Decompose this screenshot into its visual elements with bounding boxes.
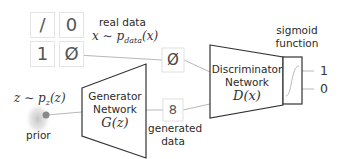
real-digit-3: 1 bbox=[30, 41, 55, 67]
real-to-discriminator-connector bbox=[184, 60, 210, 72]
real-digit-2: 0 bbox=[59, 12, 84, 38]
generated-to-discriminator-connector bbox=[183, 104, 210, 110]
discriminator-subtitle: Network bbox=[208, 76, 286, 88]
real-sample-digit: Ø bbox=[162, 48, 184, 72]
generator-title: Generator bbox=[86, 90, 144, 102]
prior-label: prior bbox=[26, 129, 51, 141]
real-data-label: real data bbox=[99, 16, 146, 28]
output-fake: 0 bbox=[320, 81, 328, 96]
generated-label-line2: data bbox=[148, 135, 198, 147]
real-digit-1: / bbox=[30, 12, 55, 38]
prior-distribution: z ∼ pz(z) bbox=[14, 91, 66, 110]
generator-subtitle: Network bbox=[86, 103, 144, 115]
generated-sample-digit: 8 bbox=[163, 99, 183, 121]
sigmoid-label-line2: function bbox=[262, 37, 332, 49]
real-digit-4: Ø bbox=[59, 41, 84, 67]
generated-label-line1: generated bbox=[148, 122, 198, 134]
discriminator-function: D(x) bbox=[208, 89, 286, 103]
sigmoid-label-line1: sigmoid bbox=[262, 24, 332, 36]
prior-to-generator-connector bbox=[46, 112, 82, 115]
discriminator-title: Discriminator bbox=[208, 63, 286, 75]
prior-dot-icon bbox=[43, 112, 50, 119]
output-real: 1 bbox=[320, 63, 328, 78]
real-data-distribution: x ∼ pdata(x) bbox=[92, 29, 158, 48]
generator-function: G(z) bbox=[86, 116, 144, 130]
